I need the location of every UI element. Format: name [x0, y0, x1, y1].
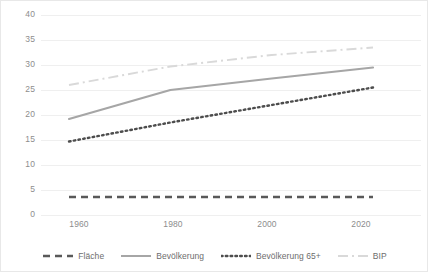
chart-legend: FlächeBevölkerungBevölkerung 65+BIP: [1, 241, 428, 271]
x-tick-label: 1980: [163, 219, 182, 229]
legend-swatch-dotted-icon: [221, 251, 251, 261]
legend-swatch-dashdot-icon: [338, 251, 368, 261]
x-tick-label: 2020: [351, 219, 370, 229]
legend-label: Bevölkerung: [156, 251, 204, 261]
y-tick-label: 10: [9, 160, 35, 169]
y-tick-label: 40: [9, 10, 35, 19]
x-axis-ticks: 1960198020002020: [1, 219, 428, 237]
chart-container: 4035302520151050 1960198020002020 Fläche…: [0, 0, 428, 272]
legend-item-0[interactable]: Fläche: [43, 251, 104, 261]
y-tick-label: 35: [9, 35, 35, 44]
legend-label: Fläche: [78, 251, 104, 261]
y-tick-label: 5: [9, 185, 35, 194]
y-tick-label: 15: [9, 135, 35, 144]
x-tick-label: 1960: [69, 219, 88, 229]
series-line-3: [69, 48, 373, 86]
y-tick-label: 0: [9, 210, 35, 219]
plot-svg: [1, 1, 428, 241]
series-lines: [69, 48, 373, 198]
series-line-1: [69, 68, 373, 120]
legend-item-1[interactable]: Bevölkerung: [121, 251, 204, 261]
legend-item-3[interactable]: BIP: [338, 251, 387, 261]
legend-label: BIP: [373, 251, 387, 261]
y-tick-label: 25: [9, 85, 35, 94]
legend-label: Bevölkerung 65+: [256, 251, 321, 261]
x-tick-label: 2000: [257, 219, 276, 229]
y-tick-label: 20: [9, 110, 35, 119]
legend-swatch-solid-icon: [121, 251, 151, 261]
y-axis-ticks: 4035302520151050: [5, 1, 35, 241]
legend-item-2[interactable]: Bevölkerung 65+: [221, 251, 321, 261]
y-tick-label: 30: [9, 60, 35, 69]
plot-area: 4035302520151050: [1, 1, 428, 241]
legend-swatch-dashed-icon: [43, 251, 73, 261]
gridlines: [41, 15, 421, 215]
